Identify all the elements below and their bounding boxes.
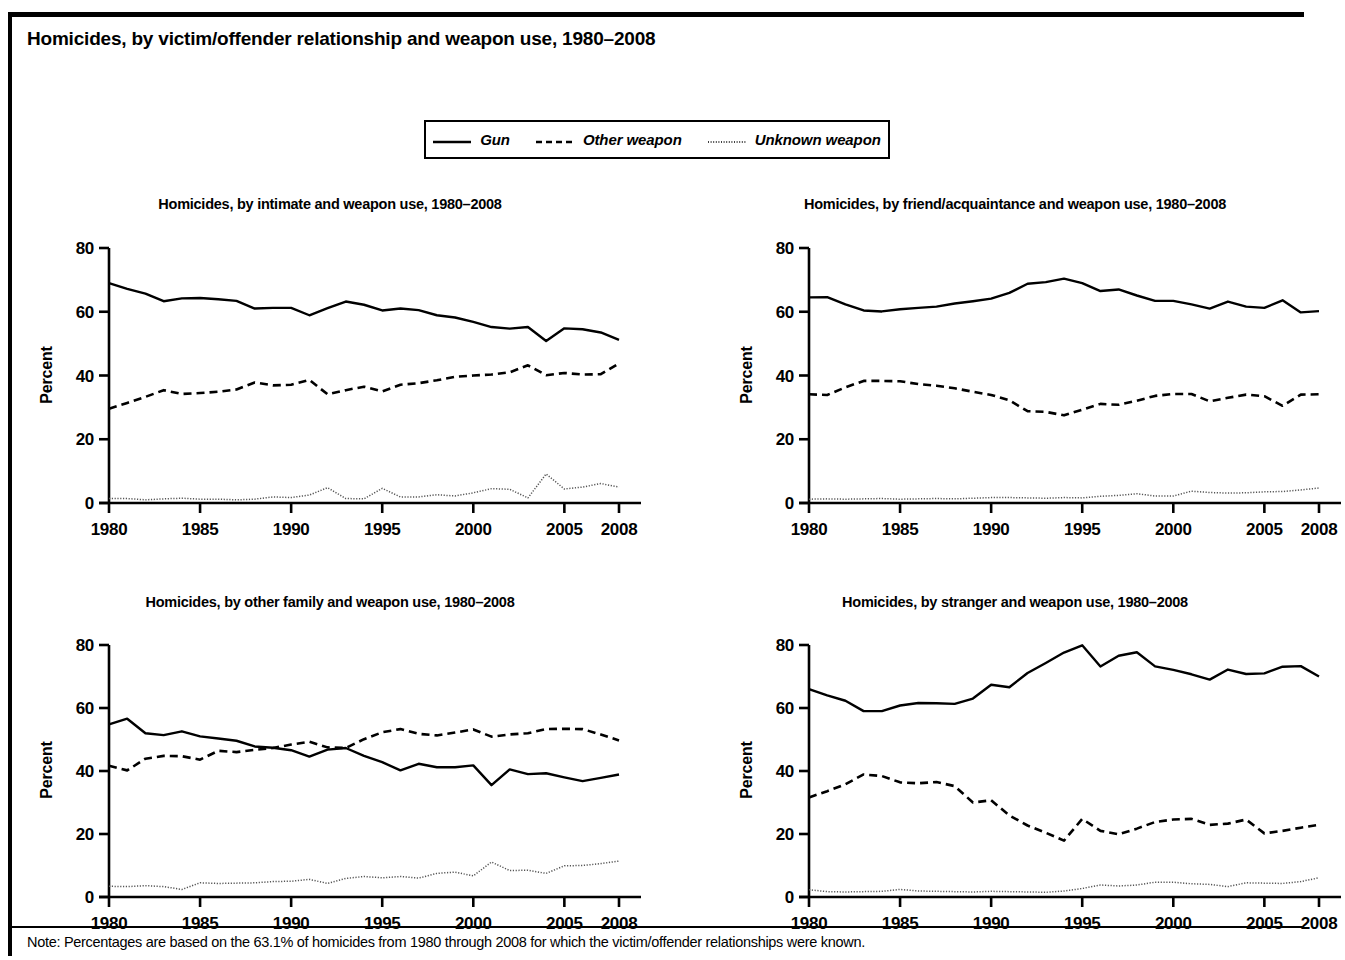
x-tick-label: 1980	[91, 914, 128, 933]
y-tick-label: 20	[76, 825, 94, 844]
series-line-other-weapon	[109, 729, 619, 771]
y-tick-label: 60	[76, 303, 94, 322]
dashed-line-icon	[536, 134, 574, 146]
legend-label: Unknown weapon	[755, 131, 881, 148]
x-tick-label: 1990	[973, 914, 1010, 933]
x-tick-label: 1995	[1064, 914, 1101, 933]
x-tick-label: 1980	[791, 520, 828, 539]
figure-note: Note: Percentages are based on the 63.1%…	[27, 934, 865, 950]
series-line-other-weapon	[809, 774, 1319, 840]
series-line-gun	[809, 279, 1319, 313]
y-tick-label: 0	[785, 494, 794, 513]
x-tick-label: 2005	[546, 914, 583, 933]
x-tick-label: 1985	[182, 914, 219, 933]
series-line-other-weapon	[109, 363, 619, 408]
series-line-unknown-weapon	[109, 861, 619, 889]
x-tick-label: 1990	[273, 914, 310, 933]
chart-panel-other-family: Homicides, by other family and weapon us…	[20, 594, 659, 957]
x-tick-label: 1995	[364, 520, 401, 539]
x-tick-label: 2000	[1155, 914, 1192, 933]
series-line-unknown-weapon	[809, 488, 1319, 499]
series-line-unknown-weapon	[809, 878, 1319, 892]
y-tick-label: 60	[776, 699, 794, 718]
legend-label: Other weapon	[583, 131, 682, 148]
x-tick-label: 1985	[882, 520, 919, 539]
legend-item-gun: Gun	[433, 131, 510, 148]
x-tick-label: 1990	[973, 520, 1010, 539]
x-tick-label: 1995	[364, 914, 401, 933]
x-tick-label: 2005	[1246, 914, 1283, 933]
solid-line-icon	[433, 134, 471, 146]
y-tick-label: 0	[785, 888, 794, 907]
y-tick-label: 80	[776, 239, 794, 258]
figure-legend: GunOther weaponUnknown weapon	[424, 120, 890, 159]
y-tick-label: 80	[776, 636, 794, 655]
y-tick-label: 20	[776, 430, 794, 449]
y-tick-label: 20	[776, 825, 794, 844]
x-tick-label: 2008	[1301, 520, 1338, 539]
series-line-unknown-weapon	[109, 474, 619, 500]
note-divider	[8, 926, 1304, 928]
y-tick-label: 60	[76, 699, 94, 718]
y-tick-label: 60	[776, 303, 794, 322]
chart-panel-intimate: Homicides, by intimate and weapon use, 1…	[20, 196, 659, 563]
x-tick-label: 2000	[1155, 520, 1192, 539]
y-tick-label: 40	[776, 367, 794, 386]
series-line-other-weapon	[809, 381, 1319, 415]
chart-panel-friend-acquaintance: Homicides, by friend/acquaintance and we…	[726, 196, 1345, 563]
y-tick-label: 20	[76, 430, 94, 449]
x-tick-label: 2008	[601, 914, 638, 933]
y-tick-label: 0	[85, 494, 94, 513]
x-tick-label: 1980	[91, 520, 128, 539]
legend-label: Gun	[480, 131, 510, 148]
x-tick-label: 2008	[1301, 914, 1338, 933]
y-tick-label: 40	[776, 762, 794, 781]
chart-panel-stranger: Homicides, by stranger and weapon use, 1…	[726, 594, 1345, 957]
x-tick-label: 2005	[1246, 520, 1283, 539]
x-tick-label: 1980	[791, 914, 828, 933]
dotted-line-icon	[708, 134, 746, 146]
series-line-gun	[109, 283, 619, 341]
legend-item-other-weapon: Other weapon	[536, 131, 682, 148]
x-tick-label: 1995	[1064, 520, 1101, 539]
x-tick-label: 2000	[455, 520, 492, 539]
x-tick-label: 1990	[273, 520, 310, 539]
x-tick-label: 2005	[546, 520, 583, 539]
x-tick-label: 2000	[455, 914, 492, 933]
y-tick-label: 40	[76, 762, 94, 781]
y-tick-label: 0	[85, 888, 94, 907]
y-tick-label: 80	[76, 636, 94, 655]
series-line-gun	[809, 645, 1319, 711]
figure-title: Homicides, by victim/offender relationsh…	[27, 28, 655, 50]
x-tick-label: 1985	[182, 520, 219, 539]
y-tick-label: 40	[76, 367, 94, 386]
legend-item-unknown-weapon: Unknown weapon	[708, 131, 881, 148]
y-tick-label: 80	[76, 239, 94, 258]
x-tick-label: 1985	[882, 914, 919, 933]
x-tick-label: 2008	[601, 520, 638, 539]
